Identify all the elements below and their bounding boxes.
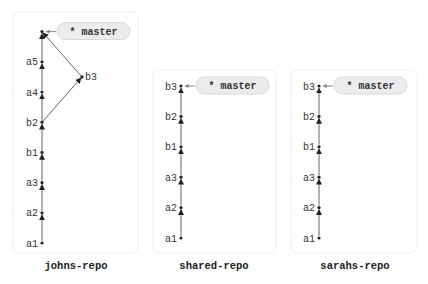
commit-label-a5: a5 [26, 57, 38, 68]
commit-label-a2: a2 [165, 203, 177, 214]
commit-label-a2: a2 [26, 208, 38, 219]
commit-node-b3 [317, 84, 320, 87]
commit-node-a1 [179, 236, 182, 239]
commit-label-b2: b2 [26, 118, 38, 129]
commit-node-b1 [317, 145, 320, 148]
commit-node-a1 [40, 241, 43, 244]
repo-label-shared: shared-repo [179, 260, 248, 272]
commit-node-a1 [317, 236, 320, 239]
commit-label-b2: b2 [303, 112, 315, 123]
commit-label-b1: b1 [303, 142, 315, 153]
commit-node-a5 [40, 60, 43, 63]
commit-label-a3: a3 [26, 178, 38, 189]
commit-node-a3 [179, 176, 182, 179]
commit-node-a2 [40, 211, 43, 214]
commit-node-a3 [40, 181, 43, 184]
commit-node-b1 [40, 151, 43, 154]
commit-label-b3: b3 [85, 72, 97, 83]
repo-label-sarahs: sarahs-repo [320, 260, 389, 272]
commit-label-a4: a4 [26, 88, 38, 99]
commit-node-b3 [80, 75, 83, 78]
commit-label-b3: b3 [165, 82, 177, 93]
commit-node-b2 [179, 115, 182, 118]
commit-node-a3 [317, 176, 320, 179]
repo-label-johns: johns-repo [44, 260, 107, 272]
commit-node-merge [40, 30, 43, 33]
commit-node-a2 [317, 206, 320, 209]
commit-node-a2 [179, 206, 182, 209]
commit-node-b1 [179, 145, 182, 148]
commit-label-b2: b2 [165, 112, 177, 123]
commit-node-b2 [317, 115, 320, 118]
commit-label-a3: a3 [303, 173, 315, 184]
commit-node-b2 [40, 121, 43, 124]
branch-pill-label: * master [208, 81, 256, 92]
commit-label-b1: b1 [165, 142, 177, 153]
commit-label-a3: a3 [165, 173, 177, 184]
commit-label-b1: b1 [26, 148, 38, 159]
sarahs-repo-box [291, 70, 417, 253]
commit-label-b3: b3 [303, 82, 315, 93]
commit-label-a1: a1 [303, 234, 315, 245]
branch-pill-label: * master [346, 81, 394, 92]
commit-label-a2: a2 [303, 203, 315, 214]
commit-graph-diagram: a1a2a3b1b2a4a5b3* master a1a2a3b1b2b3* m… [0, 0, 428, 284]
commit-label-a1: a1 [165, 234, 177, 245]
branch-pill-label: * master [69, 27, 117, 38]
shared-repo-box [153, 70, 276, 253]
commit-node-b3 [179, 84, 182, 87]
commit-label-a1: a1 [26, 239, 38, 250]
commit-node-a4 [40, 90, 43, 93]
